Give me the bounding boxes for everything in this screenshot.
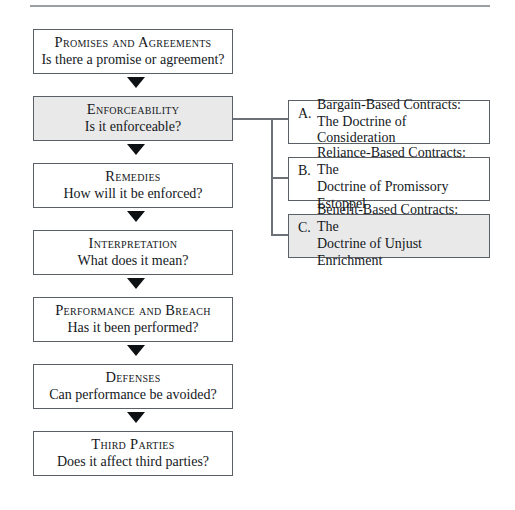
flowchart-canvas: Promises and Agreements Is there a promi…: [0, 0, 515, 510]
connector-stub-a: [271, 118, 289, 120]
branch-letter: B.: [298, 162, 317, 179]
branch-text-line1: Bargain-Based Contracts:: [317, 97, 483, 114]
flow-node-title: Third Parties: [91, 436, 174, 453]
flow-node-title: Performance and Breach: [55, 302, 211, 319]
flow-arrow-down-icon: [127, 278, 145, 289]
flow-arrow-down-icon: [127, 345, 145, 356]
branch-text-line1: Reliance-Based Contracts: The: [317, 145, 483, 179]
flow-node-question: Is it enforceable?: [85, 119, 181, 136]
branch-text: Bargain-Based Contracts: The Doctrine of…: [317, 97, 483, 147]
flow-node-question: Is there a promise or agreement?: [41, 52, 224, 69]
flow-node-question: Can performance be avoided?: [49, 387, 217, 404]
flow-node-title: Enforceability: [87, 101, 180, 118]
connector-stub-b: [271, 177, 289, 179]
flow-node-title: Promises and Agreements: [55, 34, 212, 51]
flow-node-question: Has it been performed?: [68, 320, 199, 337]
branch-text: Benefit-Based Contracts: The Doctrine of…: [317, 202, 483, 269]
flow-node-defenses[interactable]: Defenses Can performance be avoided?: [33, 364, 233, 409]
flow-node-question: Does it affect third parties?: [57, 454, 209, 471]
flow-node-title: Defenses: [105, 369, 160, 386]
flow-arrow-down-icon: [127, 144, 145, 155]
flow-node-enforceability[interactable]: Enforceability Is it enforceable?: [33, 96, 233, 141]
branch-text-line2: Doctrine of Unjust Enrichment: [317, 236, 483, 270]
branch-node-reliance-based-contracts[interactable]: B. Reliance-Based Contracts: The Doctrin…: [288, 157, 490, 201]
connector-stub-c: [271, 234, 289, 236]
flow-node-remedies[interactable]: Remedies How will it be enforced?: [33, 163, 233, 208]
branch-node-benefit-based-contracts[interactable]: C. Benefit-Based Contracts: The Doctrine…: [288, 214, 490, 258]
top-rule-divider: [30, 5, 490, 7]
flow-node-question: How will it be enforced?: [63, 186, 202, 203]
flow-node-promises-and-agreements[interactable]: Promises and Agreements Is there a promi…: [33, 29, 233, 74]
branch-node-bargain-based-contracts[interactable]: A. Bargain-Based Contracts: The Doctrine…: [288, 100, 490, 144]
flow-node-title: Interpretation: [89, 235, 178, 252]
flow-arrow-down-icon: [127, 77, 145, 88]
branch-letter: C.: [298, 219, 317, 236]
flow-node-question: What does it mean?: [78, 253, 189, 270]
flow-node-interpretation[interactable]: Interpretation What does it mean?: [33, 230, 233, 275]
flow-arrow-down-icon: [127, 211, 145, 222]
flow-arrow-down-icon: [127, 412, 145, 423]
branch-letter: A.: [298, 105, 317, 122]
branch-text-line1: Benefit-Based Contracts: The: [317, 202, 483, 236]
flow-node-third-parties[interactable]: Third Parties Does it affect third parti…: [33, 431, 233, 476]
connector-enforceability-to-branches: [233, 118, 273, 120]
flow-node-title: Remedies: [105, 168, 160, 185]
flow-node-performance-and-breach[interactable]: Performance and Breach Has it been perfo…: [33, 297, 233, 342]
branch-text-line2: The Doctrine of Consideration: [317, 114, 483, 148]
